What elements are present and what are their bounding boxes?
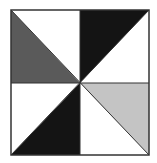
pinwheel-diagram (0, 0, 157, 163)
